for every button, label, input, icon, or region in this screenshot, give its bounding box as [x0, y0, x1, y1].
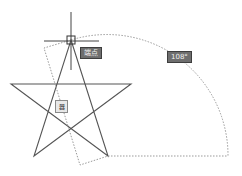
dynamic-input-field[interactable]: 器: [55, 100, 68, 113]
crosshair-cursor-icon: [44, 12, 99, 70]
rotation-preview-outline: [44, 40, 228, 165]
rotation-angle-tooltip: 108°: [167, 51, 192, 63]
drawing-canvas[interactable]: [0, 0, 242, 176]
endpoint-snap-tooltip: 端点: [80, 47, 102, 59]
